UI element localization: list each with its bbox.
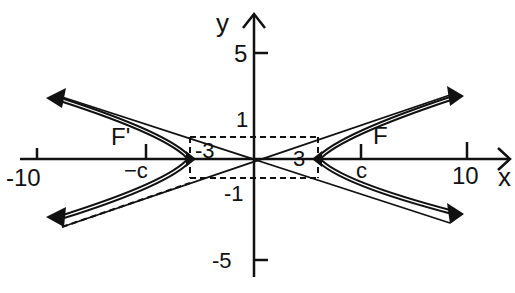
asymptotes xyxy=(62,95,450,227)
arrowhead-upper-right-icon xyxy=(447,86,464,106)
y-tick-label-5: 5 xyxy=(234,42,247,66)
x-tick-label-neg10: -10 xyxy=(6,166,41,190)
x-axis xyxy=(20,142,510,170)
x-tick-label-10: 10 xyxy=(452,164,479,188)
vertex-right-marker xyxy=(312,151,322,167)
y-tick-label-neg5: -5 xyxy=(212,250,232,272)
x-tick-label-neg-c: −c xyxy=(124,160,148,182)
vertex-label-right: 3 xyxy=(293,148,305,170)
arrowhead-upper-left-icon xyxy=(46,88,66,108)
diagram-canvas xyxy=(0,0,515,293)
x-axis-label: x xyxy=(498,164,511,190)
y-tick-label-neg1: -1 xyxy=(224,183,244,205)
vertex-label-left: -3 xyxy=(195,140,215,162)
arrowhead-lower-right-icon xyxy=(447,203,464,224)
focus-label-right: F xyxy=(373,124,388,148)
hyperbola-diagram: y x -10 −c c 10 5 1 -1 -5 -3 3 F' F xyxy=(0,0,515,293)
x-tick-label-c: c xyxy=(356,160,367,182)
y-tick-label-1: 1 xyxy=(236,109,248,131)
hyperbola-right-branch xyxy=(318,97,455,213)
arrowhead-lower-left-icon xyxy=(46,207,66,227)
focus-label-left: F' xyxy=(111,125,130,149)
y-axis-label: y xyxy=(216,10,229,36)
